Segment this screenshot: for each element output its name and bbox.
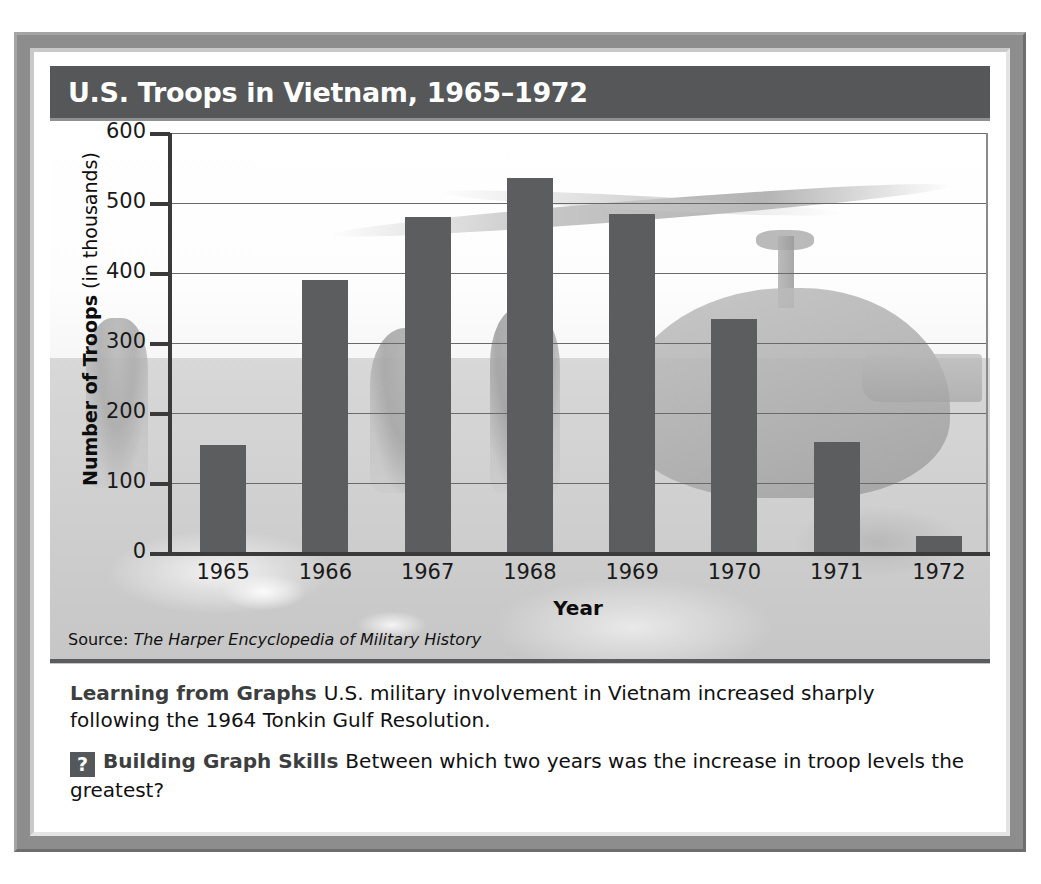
bar-1968: [507, 178, 553, 553]
building-graph-skills-lead: Building Graph Skills: [103, 749, 338, 773]
bar-1972: [916, 536, 962, 553]
chart-bottom-divider: [50, 659, 990, 663]
chart-title-band: U.S. Troops in Vietnam, 1965–1972: [50, 66, 990, 118]
y-axis-line: [168, 133, 172, 554]
figure-outer-frame: U.S. Troops in Vietnam, 1965–1972: [14, 32, 1026, 852]
building-graph-skills-paragraph: ?Building Graph SkillsBetween which two …: [70, 748, 970, 804]
x-axis-title: Year: [168, 596, 988, 620]
learning-from-graphs-paragraph: Learning from GraphsU.S. military involv…: [70, 680, 970, 734]
y-tick-mark: [150, 342, 170, 346]
y-tick-mark: [150, 202, 170, 206]
y-tick-mark: [150, 132, 170, 136]
x-tick-label: 1969: [582, 560, 682, 584]
bar-series: [172, 133, 990, 553]
figure-inner-panel: U.S. Troops in Vietnam, 1965–1972: [30, 48, 1010, 836]
bar-1971: [814, 442, 860, 553]
y-tick-mark: [150, 412, 170, 416]
y-tick-mark: [150, 272, 170, 276]
y-axis-title-units: (in thousands): [79, 152, 101, 289]
x-tick-label: 1965: [173, 560, 273, 584]
source-line: Source: The Harper Encyclopedia of Milit…: [68, 630, 481, 649]
x-tick-label: 1966: [275, 560, 375, 584]
y-tick-label: 0: [50, 539, 146, 563]
x-axis-line: [168, 552, 990, 556]
x-tick-label: 1968: [480, 560, 580, 584]
caption-block: Learning from GraphsU.S. military involv…: [50, 664, 990, 803]
chart-body: 6005004003002001000 19651966196719681969…: [50, 118, 990, 664]
page-title: U.S. Troops in Vietnam, 1965–1972: [68, 77, 588, 108]
x-tick-label: 1972: [889, 560, 989, 584]
x-tick-label: 1971: [787, 560, 887, 584]
y-axis-title: Number of Troops (in thousands): [79, 129, 101, 509]
learning-from-graphs-lead: Learning from Graphs: [70, 681, 317, 705]
y-tick-mark: [150, 482, 170, 486]
bar-1966: [302, 280, 348, 553]
x-tick-label: 1970: [684, 560, 784, 584]
source-title: The Harper Encyclopedia of Military Hist…: [133, 630, 481, 649]
bar-1969: [609, 214, 655, 553]
question-mark-badge-icon: ?: [70, 752, 95, 777]
source-label: Source:: [68, 630, 128, 649]
bar-1965: [200, 445, 246, 554]
x-tick-label: 1967: [378, 560, 478, 584]
y-tick-mark: [150, 552, 170, 556]
bar-1970: [711, 319, 757, 554]
y-axis-title-bold: Number of Troops: [79, 295, 101, 486]
bar-1967: [405, 217, 451, 553]
